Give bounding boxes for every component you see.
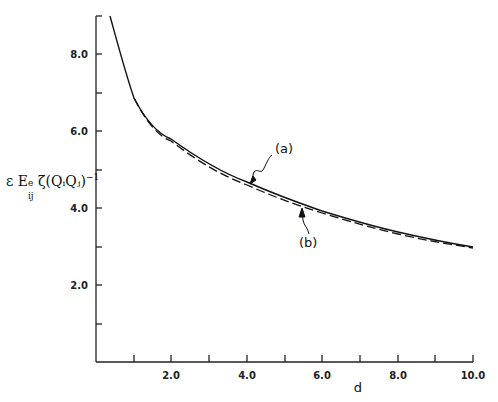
annotation-a — [250, 155, 272, 184]
curve-a — [110, 16, 473, 247]
y-axis-label-sub: ij — [28, 191, 34, 201]
x-tick-label: 10.0 — [461, 370, 486, 381]
x-axis-label: d — [354, 380, 362, 395]
y-axis-label-exp: −1 — [86, 172, 99, 182]
curve-b-label: (b) — [299, 235, 317, 250]
y-tick-label: 4.0 — [70, 203, 88, 214]
x-tick-label: 4.0 — [238, 370, 256, 381]
y-axis-label: ε Eeijζ(QᵢQⱼ)−1 — [6, 172, 99, 189]
y-tick-label: 2.0 — [70, 280, 88, 291]
curve-b — [134, 98, 473, 248]
x-tick-label: 2.0 — [162, 370, 180, 381]
y-axis-label-prefix: ε E — [6, 173, 28, 189]
y-axis-label-sup: e — [28, 178, 33, 188]
y-axis-label-rest: ζ(QᵢQⱼ) — [38, 173, 86, 189]
y-axis — [96, 16, 102, 362]
curve-a-label: (a) — [275, 141, 293, 156]
chart-canvas: 8.0 6.0 4.0 2.0 2.0 4.0 6.0 8.0 10.0 d (… — [0, 0, 498, 402]
annotation-b — [299, 208, 309, 234]
x-tick-label: 6.0 — [313, 370, 331, 381]
x-axis — [96, 355, 473, 362]
y-tick-label: 6.0 — [70, 126, 88, 137]
y-tick-label: 8.0 — [70, 49, 88, 60]
x-tick-label: 8.0 — [389, 370, 407, 381]
